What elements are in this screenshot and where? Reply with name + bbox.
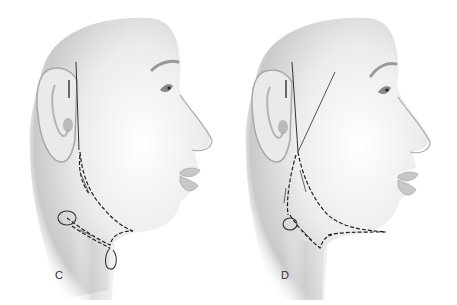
head-profile-c-illustration [0,0,228,305]
panel-label-c: C [55,269,63,281]
lips [180,168,200,191]
panel-c: C [0,0,228,305]
head-profile-d-illustration [228,0,457,305]
panel-d: D [228,0,457,305]
panel-label-d: D [281,269,289,281]
